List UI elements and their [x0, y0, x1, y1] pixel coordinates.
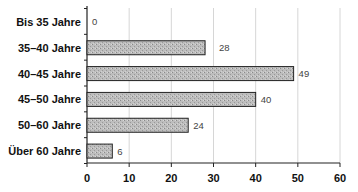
- bar: [87, 67, 294, 81]
- category-label: 35–40 Jahre: [18, 42, 81, 54]
- category-label: Über 60 Jahre: [8, 145, 81, 157]
- x-tick-labels: 0102030405060: [84, 172, 346, 184]
- value-label: 40: [261, 94, 272, 105]
- value-label: 6: [117, 146, 122, 157]
- category-label: 50–60 Jahre: [18, 119, 81, 131]
- category-label: 45–50 Jahre: [18, 93, 81, 105]
- value-label: 24: [193, 120, 204, 131]
- x-tick-label: 60: [334, 172, 346, 184]
- x-tick-label: 30: [207, 172, 219, 184]
- category-label: Bis 35 Jahre: [16, 16, 81, 28]
- bar: [87, 41, 205, 55]
- x-tick-label: 20: [165, 172, 177, 184]
- x-tick-label: 10: [123, 172, 135, 184]
- axes: [84, 6, 340, 167]
- value-label: 49: [299, 68, 310, 79]
- x-tick-label: 40: [250, 172, 262, 184]
- category-labels: Bis 35 Jahre35–40 Jahre40–45 Jahre45–50 …: [8, 16, 81, 157]
- bar: [87, 92, 256, 106]
- grid-lines: [129, 8, 340, 163]
- value-label: 28: [219, 42, 230, 53]
- category-label: 40–45 Jahre: [18, 68, 81, 80]
- bar: [87, 118, 188, 132]
- value-label: 0: [92, 16, 97, 27]
- bars: 0284940246: [87, 16, 309, 158]
- horizontal-bar-chart: 0284940246 Bis 35 Jahre35–40 Jahre40–45 …: [0, 0, 358, 192]
- x-tick-label: 50: [292, 172, 304, 184]
- bar: [87, 144, 112, 158]
- x-tick-label: 0: [84, 172, 90, 184]
